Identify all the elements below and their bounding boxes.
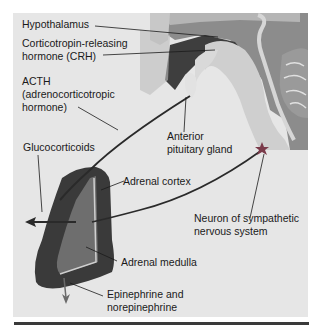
label-glucocorticoids: Glucocorticoids xyxy=(23,141,95,154)
pituitary-gland xyxy=(185,73,197,98)
label-hypothalamus: Hypothalamus xyxy=(22,18,89,31)
label-acth-line2: (adrenocorticotropic xyxy=(22,88,115,101)
label-crh-line2: hormone (CRH) xyxy=(22,50,96,63)
label-neuron-line2: nervous system xyxy=(194,225,268,238)
label-epinephrine-line2: norepinephrine xyxy=(107,301,177,314)
brain-region xyxy=(140,13,308,150)
label-neuron-line1: Neuron of sympathetic xyxy=(194,212,299,225)
label-adrenal-cortex: Adrenal cortex xyxy=(123,175,191,188)
label-crh-line1: Corticotropin-releasing xyxy=(22,37,128,50)
label-adrenal-medulla: Adrenal medulla xyxy=(121,256,197,269)
label-anterior-pituitary-line2: pituitary gland xyxy=(167,143,232,156)
label-acth-line3: hormone) xyxy=(22,101,67,114)
label-anterior-pituitary-line1: Anterior xyxy=(167,130,204,143)
label-acth-line1: ACTH xyxy=(22,75,51,88)
bottom-divider xyxy=(14,322,309,325)
label-epinephrine-line1: Epinephrine and xyxy=(107,288,183,301)
